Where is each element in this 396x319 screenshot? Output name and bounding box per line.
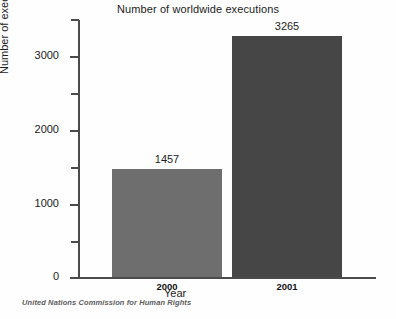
plot-area: 3000 2000 1000 0 1457 2000 3265 2001 xyxy=(78,20,376,278)
y-tick-minor-1500 xyxy=(71,167,79,169)
y-tick-label-1000: 1000 xyxy=(35,197,59,209)
y-tick-label-0: 0 xyxy=(53,270,59,282)
bar-2000[interactable]: 1457 2000 xyxy=(112,169,222,277)
y-tick-minor-2500 xyxy=(71,93,79,95)
y-tick-label-3000: 3000 xyxy=(35,49,59,61)
y-axis-title: Number of executions xyxy=(0,0,10,74)
chart-figure: Number of worldwide executions 3000 2000… xyxy=(0,0,396,319)
bar-2001[interactable]: 3265 2001 xyxy=(232,36,342,277)
y-tick-major-2000: 2000 xyxy=(70,130,79,132)
x-axis-line xyxy=(78,277,376,279)
source-note: United Nations Commission for Human Righ… xyxy=(22,298,191,307)
x-tick-label-2001: 2001 xyxy=(276,281,297,292)
chart-title: Number of worldwide executions xyxy=(0,3,396,15)
y-tick-minor-500 xyxy=(71,241,79,243)
y-tick-minor-3500 xyxy=(71,19,79,21)
y-tick-major-0: 0 xyxy=(70,277,79,279)
y-tick-major-3000: 3000 xyxy=(70,56,79,58)
y-tick-major-1000: 1000 xyxy=(70,204,79,206)
bar-value-2001: 3265 xyxy=(275,20,299,32)
y-tick-label-2000: 2000 xyxy=(35,123,59,135)
y-axis-line xyxy=(78,20,80,278)
bar-value-2000: 1457 xyxy=(155,153,179,165)
